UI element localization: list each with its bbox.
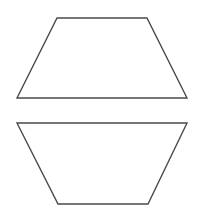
lower-trapezoid xyxy=(17,123,187,204)
upper-trapezoid xyxy=(17,18,187,98)
diagram-canvas xyxy=(0,0,205,213)
